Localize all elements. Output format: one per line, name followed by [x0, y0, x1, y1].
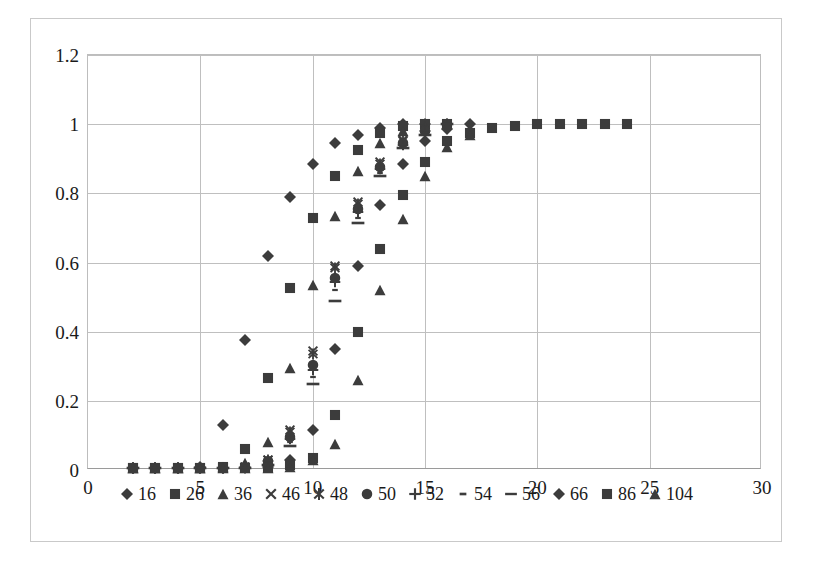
plus-icon — [407, 487, 422, 502]
legend-item[interactable]: 46 — [263, 485, 300, 503]
data-point — [150, 463, 161, 474]
data-point — [441, 135, 453, 147]
data-point — [172, 462, 184, 474]
y-axis-tick-label: 1.2 — [55, 46, 79, 65]
data-point — [509, 120, 521, 132]
legend-item[interactable]: 54 — [455, 485, 492, 503]
data-point — [127, 462, 139, 474]
data-point — [330, 262, 341, 273]
data-point — [397, 139, 408, 150]
data-point — [127, 462, 139, 474]
data-point — [239, 462, 251, 474]
data-point — [239, 443, 251, 455]
legend-item[interactable]: 104 — [647, 485, 693, 503]
data-point — [216, 462, 229, 475]
data-point — [262, 372, 274, 384]
legend-item-label: 86 — [618, 485, 636, 503]
legend-item[interactable]: 56 — [503, 485, 540, 503]
data-point — [284, 431, 296, 443]
legend-item[interactable]: 36 — [215, 485, 252, 503]
data-point — [150, 463, 160, 473]
data-point — [127, 462, 139, 474]
data-point — [374, 199, 386, 211]
legend-item-label: 66 — [570, 485, 588, 503]
data-point — [464, 129, 476, 141]
data-point — [218, 463, 228, 473]
legend-item[interactable]: 86 — [599, 485, 636, 503]
circle-icon — [359, 487, 374, 502]
data-point — [397, 136, 408, 147]
legend-item[interactable]: 52 — [407, 485, 444, 503]
data-point — [172, 463, 183, 474]
data-point — [352, 374, 364, 386]
data-point — [285, 426, 296, 437]
data-point — [127, 463, 138, 474]
x-cross-icon — [263, 487, 278, 502]
data-point — [464, 127, 476, 139]
data-point — [262, 250, 274, 262]
data-point — [285, 425, 296, 436]
data-point — [150, 463, 161, 474]
data-point — [240, 461, 251, 472]
data-point — [126, 462, 139, 475]
data-point — [374, 161, 386, 173]
data-point — [263, 458, 273, 468]
data-point — [261, 458, 274, 471]
legend-item[interactable]: 16 — [119, 485, 156, 503]
data-point — [127, 462, 139, 474]
legend-item-label: 56 — [522, 485, 540, 503]
gridline-vertical — [313, 55, 314, 468]
diamond-icon — [119, 487, 134, 502]
data-point — [375, 158, 386, 169]
data-point — [352, 165, 364, 177]
data-point — [352, 129, 364, 141]
data-point — [284, 439, 297, 452]
data-point — [172, 463, 183, 474]
data-point — [262, 454, 273, 465]
data-point — [172, 462, 184, 474]
data-point — [217, 463, 228, 474]
data-point — [239, 334, 251, 346]
plot-area: 00.20.40.60.811.2 051015202530 — [87, 54, 761, 469]
gridline-horizontal — [88, 124, 760, 125]
data-point — [128, 463, 138, 473]
legend-item-label: 50 — [378, 485, 396, 503]
y-axis-tick-label: 0.2 — [55, 391, 79, 410]
data-point — [172, 463, 183, 474]
legend-item[interactable]: 50 — [359, 485, 396, 503]
legend-item[interactable]: 26 — [167, 485, 204, 503]
data-point — [329, 272, 341, 284]
legend-item[interactable]: 48 — [311, 485, 348, 503]
data-point — [172, 462, 184, 474]
data-point — [329, 210, 341, 222]
data-point — [352, 207, 363, 218]
data-point — [172, 462, 184, 474]
data-point — [441, 141, 453, 153]
data-point — [217, 462, 229, 474]
data-point — [150, 463, 161, 474]
legend-item-label: 104 — [666, 485, 693, 503]
data-point — [374, 284, 386, 296]
gridline-horizontal — [88, 263, 760, 264]
data-point — [375, 168, 385, 178]
data-point — [127, 462, 139, 474]
square-icon — [167, 487, 182, 502]
legend-item[interactable]: 66 — [551, 485, 588, 503]
data-point — [262, 455, 274, 467]
data-point — [127, 463, 138, 474]
data-point — [284, 362, 296, 374]
data-point — [239, 462, 251, 474]
gridline-vertical — [650, 55, 651, 468]
y-axis-tick-label: 1 — [70, 115, 80, 134]
legend-item-label: 48 — [330, 485, 348, 503]
data-point — [284, 461, 296, 473]
y-axis-tick-label: 0 — [70, 461, 80, 480]
chart-legend: 1626364648505254566686104 — [31, 485, 781, 503]
data-point — [239, 461, 251, 473]
data-point — [149, 462, 161, 474]
data-point — [262, 462, 274, 474]
legend-item-label: 46 — [282, 485, 300, 503]
data-point — [397, 137, 409, 149]
data-point — [396, 142, 409, 155]
data-point — [239, 462, 252, 475]
